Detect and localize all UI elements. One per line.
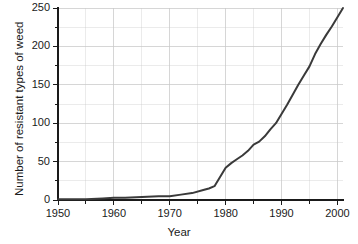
y-tick-label-50: 50	[20, 156, 50, 167]
x-tick-label-1950: 1950	[38, 208, 78, 219]
y-tick-label-200: 200	[20, 40, 50, 51]
weed-resistance-line-chart: Number of resistant types of weed Year 0…	[0, 0, 358, 244]
x-axis-title: Year	[0, 226, 358, 238]
y-tick-label-0: 0	[20, 194, 50, 205]
data-line-series	[58, 8, 343, 199]
y-tick-label-150: 150	[20, 79, 50, 90]
axis-lines	[58, 7, 344, 200]
x-tick-label-1990: 1990	[262, 208, 302, 219]
y-tick-label-100: 100	[20, 117, 50, 128]
x-tick-label-1980: 1980	[206, 208, 246, 219]
y-tick-label-250: 250	[20, 2, 50, 13]
series-line-0	[58, 8, 343, 199]
axis-ticks	[53, 8, 337, 205]
x-tick-label-1970: 1970	[150, 208, 190, 219]
x-tick-label-2000: 2000	[317, 208, 357, 219]
minor-gridlines	[58, 8, 343, 200]
x-tick-label-1960: 1960	[94, 208, 134, 219]
